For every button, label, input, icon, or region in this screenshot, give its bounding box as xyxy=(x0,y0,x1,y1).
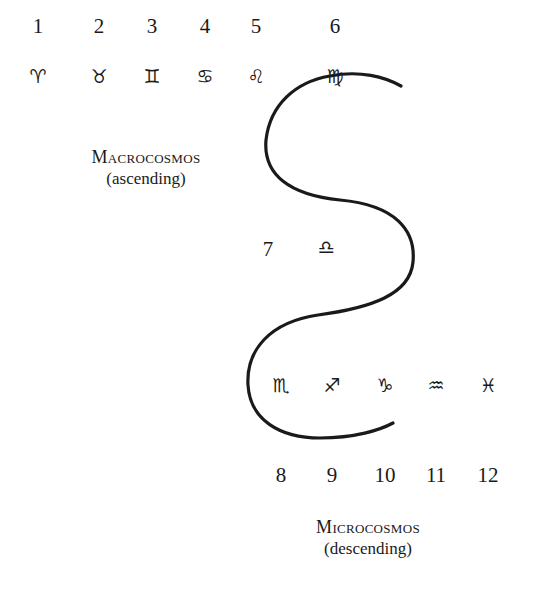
sign-number-7: 7 xyxy=(263,239,274,260)
sign-number-12: 12 xyxy=(478,465,499,486)
aquarius-icon: ♒ xyxy=(427,376,444,395)
microcosmos-caption: Microcosmos (descending) xyxy=(316,516,420,560)
libra-icon: ♎ xyxy=(317,238,334,257)
sign-number-2: 2 xyxy=(94,16,105,37)
aries-icon: ♈ xyxy=(29,67,46,86)
capricorn-icon: ♑ xyxy=(376,376,393,395)
sign-number-11: 11 xyxy=(426,465,446,486)
leo-icon: ♌ xyxy=(247,67,264,86)
sign-number-9: 9 xyxy=(327,465,338,486)
sign-number-3: 3 xyxy=(147,16,158,37)
cancer-icon: ♋ xyxy=(196,67,213,86)
microcosmos-subtitle: (descending) xyxy=(316,538,420,560)
gemini-icon: ♊ xyxy=(143,67,160,86)
sign-number-1: 1 xyxy=(33,16,44,37)
sagittarius-icon: ♐ xyxy=(323,376,340,395)
macrocosmos-title: Macrocosmos xyxy=(92,146,201,168)
virgo-icon: ♍ xyxy=(326,67,343,86)
sign-number-10: 10 xyxy=(375,465,396,486)
macrocosmos-subtitle: (ascending) xyxy=(92,168,201,190)
sign-number-4: 4 xyxy=(200,16,211,37)
microcosmos-title: Microcosmos xyxy=(316,516,420,538)
scorpio-icon: ♏ xyxy=(272,376,289,395)
sign-number-5: 5 xyxy=(251,16,262,37)
taurus-icon: ♉ xyxy=(90,67,107,86)
zodiac-s-curve-diagram: 1 ♈ 2 ♉ 3 ♊ 4 ♋ 5 ♌ 6 ♍ Macrocosmos (asc… xyxy=(0,0,533,596)
sign-number-8: 8 xyxy=(276,465,287,486)
sign-number-6: 6 xyxy=(330,16,341,37)
pisces-icon: ♓ xyxy=(479,376,496,395)
macrocosmos-caption: Macrocosmos (ascending) xyxy=(92,146,201,190)
s-curve-path xyxy=(0,0,533,596)
